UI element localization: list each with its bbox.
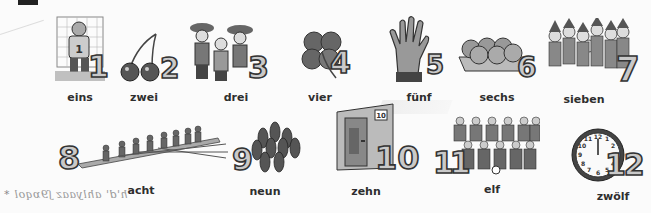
svg-text:1: 1 xyxy=(75,43,83,56)
svg-text:11: 11 xyxy=(584,135,592,142)
numeral: 2 xyxy=(160,55,179,83)
svg-text:1: 1 xyxy=(605,135,609,142)
star-mark: * xyxy=(4,188,10,201)
number-word: elf xyxy=(484,183,500,196)
svg-text:8: 8 xyxy=(581,160,585,167)
numeral: 8 xyxy=(58,142,80,174)
svg-text:9: 9 xyxy=(578,151,582,158)
number-word: zwölf xyxy=(597,190,630,203)
numeral: 5 xyxy=(426,52,444,78)
number-word: acht xyxy=(127,184,154,197)
handwritten-annotation: h'd' ahlyaaz ʃ9ɒqol xyxy=(14,188,128,201)
number-word: sieben xyxy=(564,93,605,106)
number-word: fünf xyxy=(406,91,431,104)
bowling-pins-icon xyxy=(245,118,305,178)
number-word: zehn xyxy=(351,185,381,198)
numeral: 4 xyxy=(330,48,351,78)
numeral: 12 xyxy=(605,150,643,180)
svg-text:10: 10 xyxy=(376,112,386,120)
number-word: drei xyxy=(224,91,249,104)
number-word: zwei xyxy=(130,91,158,104)
numeral: 1 xyxy=(88,52,109,82)
numeral: 3 xyxy=(248,53,269,83)
rowing-boat-icon xyxy=(78,120,228,170)
pencil-mark xyxy=(0,20,44,35)
numeral: 10 xyxy=(375,142,420,174)
numeral: 6 xyxy=(517,54,536,82)
svg-text:12: 12 xyxy=(594,133,602,140)
number-word: neun xyxy=(250,185,281,198)
numeral: 9 xyxy=(232,145,253,175)
svg-text:6: 6 xyxy=(596,169,600,176)
svg-text:7: 7 xyxy=(587,166,591,173)
number-word: sechs xyxy=(480,91,515,104)
numeral: 7 xyxy=(616,52,640,86)
svg-text:10: 10 xyxy=(578,142,586,149)
page-corner-marker xyxy=(18,0,38,5)
number-word: eins xyxy=(67,91,93,104)
number-word: vier xyxy=(308,91,332,104)
numeral: 11 xyxy=(433,148,467,178)
